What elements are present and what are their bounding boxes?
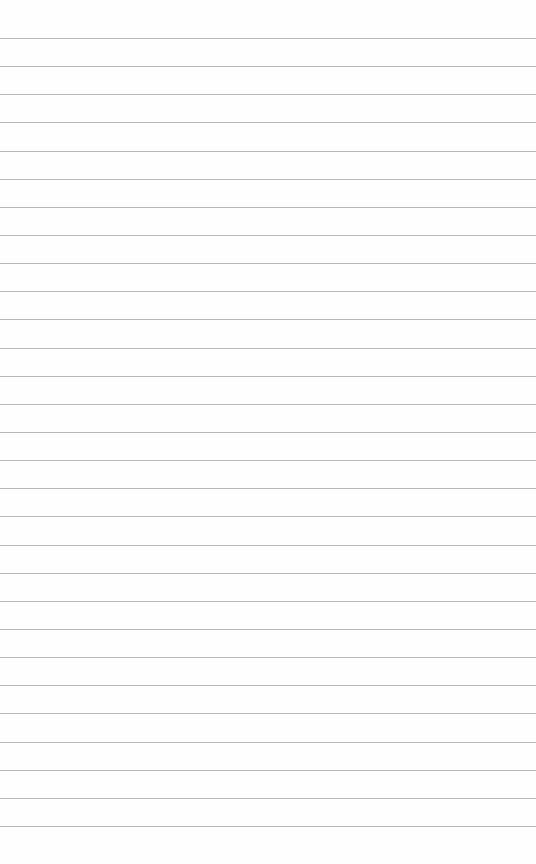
- ruled-line: [0, 770, 536, 771]
- ruled-line: [0, 151, 536, 152]
- ruled-line: [0, 94, 536, 95]
- ruled-line: [0, 263, 536, 264]
- ruled-line: [0, 742, 536, 743]
- ruled-line: [0, 573, 536, 574]
- ruled-line: [0, 432, 536, 433]
- ruled-line: [0, 601, 536, 602]
- ruled-line: [0, 488, 536, 489]
- ruled-line: [0, 179, 536, 180]
- ruled-line: [0, 460, 536, 461]
- ruled-line: [0, 122, 536, 123]
- ruled-line: [0, 685, 536, 686]
- ruled-line: [0, 545, 536, 546]
- ruled-line: [0, 348, 536, 349]
- ruled-line: [0, 404, 536, 405]
- ruled-line: [0, 713, 536, 714]
- ruled-line: [0, 376, 536, 377]
- ruled-line: [0, 235, 536, 236]
- lined-paper-sheet: [0, 0, 536, 864]
- ruled-line: [0, 826, 536, 827]
- ruled-line: [0, 291, 536, 292]
- ruled-line: [0, 798, 536, 799]
- ruled-line: [0, 38, 536, 39]
- ruled-line: [0, 629, 536, 630]
- ruled-line: [0, 319, 536, 320]
- ruled-line: [0, 66, 536, 67]
- ruled-line: [0, 657, 536, 658]
- ruled-line: [0, 516, 536, 517]
- ruled-line: [0, 207, 536, 208]
